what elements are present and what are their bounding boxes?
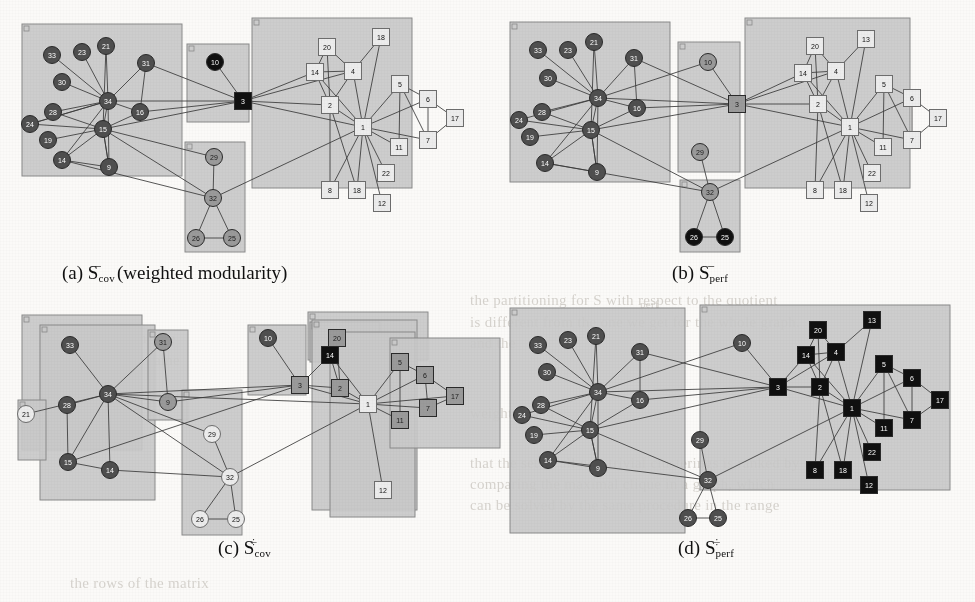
graph-node[interactable]: 11 (876, 420, 893, 437)
node-label: 10 (738, 340, 746, 347)
node-label: 26 (684, 515, 692, 522)
node-label: 19 (530, 432, 538, 439)
graph-node[interactable]: 2 (812, 379, 829, 396)
graph-node[interactable]: 15 (582, 422, 599, 439)
node-label: 14 (802, 352, 810, 359)
graph-node[interactable]: 14 (798, 347, 815, 364)
node-label: 8 (813, 467, 817, 474)
node-label: 18 (839, 467, 847, 474)
node-label: 33 (534, 342, 542, 349)
caption-b: (b) Sperf− (672, 262, 735, 284)
node-label: 29 (696, 437, 704, 444)
node-label: 25 (714, 515, 722, 522)
graph-node[interactable]: 10 (734, 335, 751, 352)
panel-d-canvas: 3323213130342824161915149293226251032013… (0, 0, 975, 602)
node-label: 16 (636, 397, 644, 404)
graph-node[interactable]: 32 (700, 472, 717, 489)
node-label: 12 (865, 482, 873, 489)
node-label: 6 (910, 375, 914, 382)
node-label: 24 (518, 412, 526, 419)
node-label: 4 (834, 349, 838, 356)
node-label: 14 (544, 457, 552, 464)
caption-letter: (d) (678, 537, 705, 558)
node-label: 34 (594, 389, 602, 396)
node-label: 23 (564, 337, 572, 344)
node-label: 20 (814, 327, 822, 334)
graph-node[interactable]: 34 (590, 384, 607, 401)
graph-node[interactable]: 30 (539, 364, 556, 381)
graph-node[interactable]: 22 (864, 444, 881, 461)
graph-node[interactable]: 13 (864, 312, 881, 329)
node-label: 13 (868, 317, 876, 324)
graph-node[interactable]: 14 (540, 452, 557, 469)
node-label: 31 (636, 349, 644, 356)
caption-c: (c) Scov÷ (218, 537, 278, 559)
panel-d: 3323213130342824161915149293226251032013… (0, 0, 975, 602)
graph-node[interactable]: 3 (770, 379, 787, 396)
graph-node[interactable]: 29 (692, 432, 709, 449)
graph-node[interactable]: 7 (904, 412, 921, 429)
graph-node[interactable]: 21 (588, 328, 605, 345)
graph-node[interactable]: 25 (710, 510, 727, 527)
graph-node[interactable]: 8 (807, 462, 824, 479)
node-label: 17 (936, 397, 944, 404)
graph-node[interactable]: 23 (560, 332, 577, 349)
node-label: 3 (776, 384, 780, 391)
graph-node[interactable]: 17 (932, 392, 949, 409)
caption-symbol: Scov÷ (244, 537, 278, 559)
graph-node[interactable]: 26 (680, 510, 697, 527)
graph-node[interactable]: 28 (533, 397, 550, 414)
node-label: 9 (596, 465, 600, 472)
node-label: 15 (586, 427, 594, 434)
graph-node[interactable]: 6 (904, 370, 921, 387)
graph-node[interactable]: 24 (514, 407, 531, 424)
node-label: 32 (704, 477, 712, 484)
node-label: 7 (910, 417, 914, 424)
graph-node[interactable]: 18 (835, 462, 852, 479)
caption-a: (a) Scov− (weighted modularity) (62, 262, 287, 284)
node-label: 5 (882, 361, 886, 368)
graph-node[interactable]: 4 (828, 344, 845, 361)
graph-node[interactable]: 19 (526, 427, 543, 444)
graph-node[interactable]: 16 (632, 392, 649, 409)
node-label: 22 (868, 449, 876, 456)
caption-letter: (c) (218, 537, 244, 558)
graph-node[interactable]: 20 (810, 322, 827, 339)
caption-symbol: Sperf− (699, 262, 735, 284)
graph-node[interactable]: 1 (844, 400, 861, 417)
caption-symbol: Sperf÷ (705, 537, 741, 559)
graph-node[interactable]: 5 (876, 356, 893, 373)
node-label: 1 (850, 405, 854, 412)
graph-node[interactable]: 9 (590, 460, 607, 477)
graph-node[interactable]: 33 (530, 337, 547, 354)
node-label: 30 (543, 369, 551, 376)
caption-d: (d) Sperf÷ (678, 537, 741, 559)
graph-node[interactable]: 31 (632, 344, 649, 361)
graph-node[interactable]: 12 (861, 477, 878, 494)
node-label: 11 (880, 425, 887, 432)
node-label: 28 (537, 402, 545, 409)
caption-letter: (a) (62, 262, 88, 283)
caption-letter: (b) (672, 262, 699, 283)
node-label: 21 (592, 333, 600, 340)
node-label: 2 (818, 384, 822, 391)
caption-extra: (weighted modularity) (112, 262, 287, 283)
